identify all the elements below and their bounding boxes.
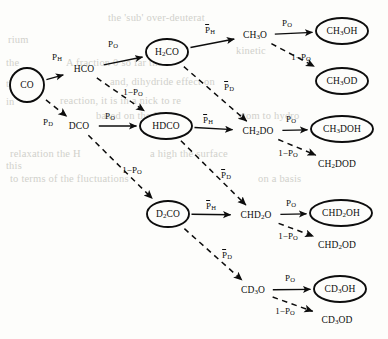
node-label-CH3O: CH3O xyxy=(243,30,267,41)
edge-HDCO-to-CH2DO xyxy=(194,128,232,130)
node-label-CH2DOD: CH2DOD xyxy=(318,159,356,170)
edge-CO-to-HCO xyxy=(46,75,63,80)
node-label-HCO: HCO xyxy=(74,64,94,74)
edge-label-CH3O-to-CH3OD: 1−PO xyxy=(291,52,310,62)
node-label-DCO: DCO xyxy=(69,121,89,131)
edge-label-CHD2O-to-CHD2OH: PO xyxy=(286,198,296,208)
node-label-CO: CO xyxy=(20,80,33,90)
edge-HDCO-to-CHD2O xyxy=(181,141,246,205)
edge-label-CHD2O-to-CHD2OD: 1−PO xyxy=(278,231,297,241)
edge-CO-to-DCO xyxy=(46,100,67,116)
node-label-H2CO: H2CO xyxy=(155,47,179,58)
edge-DCO-to-D2CO xyxy=(88,135,152,198)
edge-H2CO-to-CH2DO xyxy=(184,67,247,122)
node-label-D2CO: D2CO xyxy=(156,209,180,220)
node-label-CH3OD: CH3OD xyxy=(327,76,358,87)
edge-label-H2CO-to-CH2DO: PD xyxy=(224,82,234,92)
figure-canvas: the 'sub' over-deuteratriumkineticA frac… xyxy=(0,0,388,339)
edge-label-CH3O-to-CH3OH: PO xyxy=(282,18,292,28)
node-label-CHD2OD: CHD2OD xyxy=(318,240,356,251)
edge-label-HCO-to-H2CO: PO xyxy=(108,39,118,49)
edge-HCO-to-H2CO xyxy=(104,57,143,65)
edge-label-CD3O-to-CD3OD: 1−PO xyxy=(275,306,294,316)
edge-label-D2CO-to-CD3O: PD xyxy=(222,250,232,260)
edge-label-CH2DO-to-CH3DOH: PO xyxy=(286,114,296,124)
edge-CH3O-to-CH3OH xyxy=(275,32,313,34)
node-label-CHD2OH: CHD2OH xyxy=(322,208,360,219)
node-label-CD3OD: CD3OD xyxy=(322,315,353,326)
node-label-CH2DO: CH2DO xyxy=(243,126,274,137)
node-label-CHD2O: CHD2O xyxy=(241,210,272,221)
edge-label-CD3O-to-CD3OH: PO xyxy=(285,273,295,283)
edge-D2CO-to-CD3O xyxy=(184,229,242,281)
edge-label-H2CO-to-CH3O: PH xyxy=(205,25,215,35)
edge-label-DCO-to-D2CO: 1−PO xyxy=(122,165,141,175)
node-label-CH3OH: CH3OH xyxy=(327,26,358,37)
edge-layer xyxy=(46,32,316,311)
edge-CHD2O-to-CHD2OH xyxy=(280,214,306,215)
edge-label-HDCO-to-CH2DO: PH xyxy=(203,115,213,125)
edge-label-HDCO-to-CHD2O: PD xyxy=(221,170,231,180)
edge-label-CO-to-HCO: PH xyxy=(52,52,62,62)
edge-label-DCO-to-HDCO: PO xyxy=(105,111,115,121)
node-label-CD3O: CD3O xyxy=(241,285,265,296)
edge-label-CH2DO-to-CH2DOD: 1−PO xyxy=(278,148,297,158)
node-label-CD3OH: CD3OH xyxy=(325,284,356,295)
edge-H2CO-to-CH3O xyxy=(190,39,234,47)
edge-label-CO-to-DCO: PD xyxy=(43,117,53,127)
node-label-CH3DOH: CH3DOH xyxy=(323,124,361,135)
edge-label-HCO-to-HDCO: 1−PO xyxy=(123,87,142,97)
edge-label-D2CO-to-CHD2O: PH xyxy=(206,201,216,211)
edge-CH2DO-to-CH3DOH xyxy=(282,130,307,131)
node-label-HDCO: HDCO xyxy=(152,121,179,131)
